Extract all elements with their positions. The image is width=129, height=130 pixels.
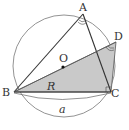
label-b-vertex: B	[2, 86, 10, 99]
diagram-canvas: A B C D O R a	[0, 0, 129, 130]
geometry-diagram: A B C D O R a	[0, 0, 129, 130]
label-c-vertex: C	[111, 87, 119, 100]
label-d-vertex: D	[114, 30, 123, 43]
label-o-center: O	[59, 52, 68, 65]
label-side-a: a	[59, 103, 66, 116]
label-a-vertex: A	[78, 1, 88, 14]
center-point-o	[61, 65, 64, 68]
angle-mark-a-inner	[79, 20, 85, 22]
label-radius-r: R	[46, 80, 55, 93]
brace-a	[14, 93, 111, 100]
angle-mark-a	[78, 22, 86, 24]
